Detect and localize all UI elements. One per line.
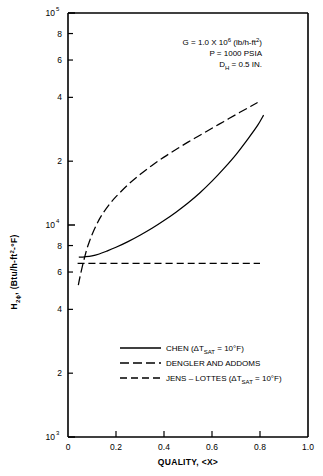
y-tick-label: 2 <box>57 368 62 378</box>
y-decade-label: 105 <box>46 6 60 18</box>
parameter-annotation: G = 1.0 X 106 (lb/h-ft2)P = 1000 PSIADH … <box>183 37 263 71</box>
x-tick-label: 0.6 <box>206 442 218 452</box>
legend-label-2: JENS – LOTTES (ΔTSAT = 10°F) <box>166 374 282 385</box>
x-tick-label: 1.0 <box>302 442 314 452</box>
svg-text:4: 4 <box>56 218 60 224</box>
x-axis-title: QUALITY, <X> <box>158 457 218 467</box>
svg-text:10: 10 <box>46 220 56 230</box>
svg-text:3: 3 <box>56 430 60 436</box>
curve-series-0 <box>79 115 264 257</box>
svg-text:10: 10 <box>46 432 56 442</box>
y-tick-label: 4 <box>57 92 62 102</box>
y-axis-ticks <box>68 13 75 437</box>
y-tick-label: 2 <box>57 156 62 166</box>
x-tick-label: 0 <box>66 442 71 452</box>
annotation-line-diameter: DH = 0.5 IN. <box>219 60 262 71</box>
chart-legend: CHEN (ΔTSAT = 10°F)DENGLER AND ADDOMSJEN… <box>120 344 282 385</box>
x-axis-tick-labels: 00.20.40.60.81.0 <box>66 442 315 452</box>
x-tick-label: 0.8 <box>254 442 266 452</box>
figure-container: 86428642105104103 00.20.40.60.81.0 QUALI… <box>0 0 323 476</box>
svg-text:10: 10 <box>46 8 56 18</box>
svg-text:5: 5 <box>56 6 60 12</box>
data-curves <box>78 103 264 286</box>
y-axis-tick-labels: 86428642105104103 <box>46 6 63 442</box>
annotation-line-pressure: P = 1000 PSIA <box>209 49 262 58</box>
x-tick-label: 0.4 <box>158 442 170 452</box>
y-tick-label: 8 <box>57 29 62 39</box>
x-tick-label: 0.2 <box>110 442 122 452</box>
y-decade-label: 104 <box>46 218 60 230</box>
legend-label-1: DENGLER AND ADDOMS <box>166 359 260 368</box>
chart-svg: 86428642105104103 00.20.40.60.81.0 QUALI… <box>0 0 323 476</box>
y-axis-title: H2ϕ, (Btu/h-ft2-°F) <box>9 234 21 309</box>
y-tick-label: 6 <box>57 267 62 277</box>
x-axis-ticks <box>116 431 260 437</box>
y-decade-label: 103 <box>46 430 60 442</box>
y-tick-label: 8 <box>57 241 62 251</box>
y-tick-label: 4 <box>57 304 62 314</box>
legend-label-0: CHEN (ΔTSAT = 10°F) <box>166 344 244 355</box>
annotation-line-mass-flux: G = 1.0 X 106 (lb/h-ft2) <box>183 37 263 47</box>
y-tick-label: 6 <box>57 55 62 65</box>
curve-series-1 <box>78 103 257 286</box>
